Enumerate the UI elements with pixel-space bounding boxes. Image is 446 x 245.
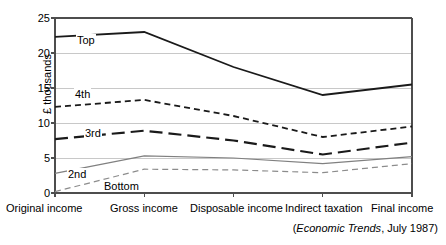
x-tick-original-income: Original income xyxy=(6,202,82,214)
series-label-3rd: 3rd xyxy=(84,127,102,139)
series-label-bottom: Bottom xyxy=(103,180,140,192)
series-line-2nd xyxy=(55,156,412,174)
line-chart: £ thousands 25 20 15 10 5 0 Original inc… xyxy=(0,0,446,245)
x-tick-gross-income: Gross income xyxy=(110,202,178,214)
series-label-top: Top xyxy=(76,34,96,46)
series-line-top xyxy=(55,32,412,95)
series-label-2nd: 2nd xyxy=(67,168,87,180)
series-line-3rd xyxy=(55,131,412,155)
x-tick-final-income: Final income xyxy=(371,202,433,214)
source-date: , July 1987) xyxy=(381,222,438,234)
x-tick-disposable-income: Disposable income xyxy=(190,202,283,214)
source-citation: (Economic Trends, July 1987) xyxy=(293,222,438,234)
source-publication: Economic Trends xyxy=(296,222,381,234)
series-label-4th: 4th xyxy=(74,88,91,100)
x-tick-indirect-taxation: Indirect taxation xyxy=(285,202,363,214)
series-line-4th xyxy=(55,100,412,137)
